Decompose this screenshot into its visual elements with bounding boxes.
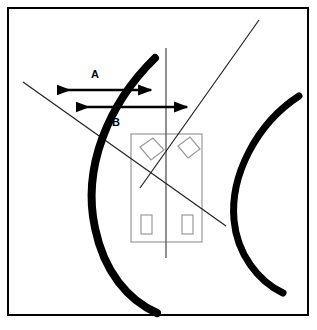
- diagram-svg: A B: [0, 0, 317, 330]
- dimension-label-a: A: [91, 68, 99, 80]
- diagram-canvas: A B: [0, 0, 317, 330]
- dimension-label-b: B: [112, 116, 120, 128]
